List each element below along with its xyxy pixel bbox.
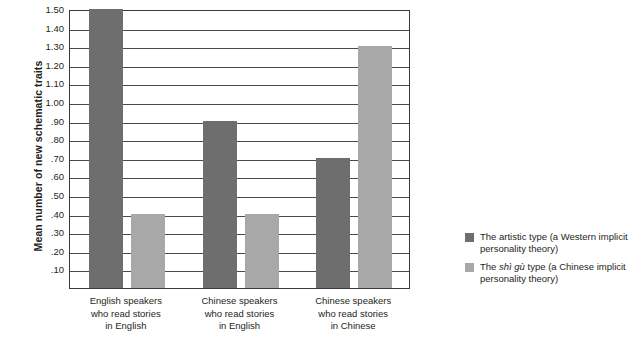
legend-label: The shì gù type (a Chinese implicit pers… xyxy=(480,261,633,285)
y-tick-label: .40 xyxy=(30,210,64,220)
y-tick-label: 1.10 xyxy=(30,79,64,89)
y-tick-label: .20 xyxy=(30,247,64,257)
y-tick-label: .30 xyxy=(30,228,64,238)
x-tick-label: Chinese speakerswho read storiesin Engli… xyxy=(175,295,305,333)
bar xyxy=(245,214,279,288)
y-tick-label: 1.00 xyxy=(30,98,64,108)
x-tick-label: Chinese speakerswho read storiesin Chine… xyxy=(288,295,418,333)
legend-label-italic: shì gù xyxy=(499,261,525,272)
y-tick-label: 1.40 xyxy=(30,24,64,34)
y-axis-tick-labels: 1.501.401.301.201.101.00.90.80.70.60.50.… xyxy=(28,10,64,289)
legend-label: The artistic type (a Western implicit pe… xyxy=(480,231,633,255)
legend-swatch-icon xyxy=(465,263,474,272)
x-tick-label-line: Chinese speakers xyxy=(175,295,305,308)
x-tick-label-line: Chinese speakers xyxy=(288,295,418,308)
y-tick-label: .50 xyxy=(30,191,64,201)
y-tick-label: 1.20 xyxy=(30,61,64,71)
bar xyxy=(89,9,123,288)
y-tick-label: .80 xyxy=(30,135,64,145)
y-tick-label: .10 xyxy=(30,265,64,275)
bar xyxy=(316,158,350,288)
x-tick-label-line: who read stories xyxy=(61,308,191,321)
x-tick-label: English speakerswho read storiesin Engli… xyxy=(61,295,191,333)
bar xyxy=(358,46,392,288)
bar xyxy=(131,214,165,288)
legend-item[interactable]: The artistic type (a Western implicit pe… xyxy=(465,231,633,255)
legend-swatch-icon xyxy=(465,233,474,242)
x-tick-label-line: in Chinese xyxy=(288,320,418,333)
x-tick-label-line: who read stories xyxy=(175,308,305,321)
legend: The artistic type (a Western implicit pe… xyxy=(465,231,633,291)
y-tick-label: .60 xyxy=(30,172,64,182)
x-tick-label-line: who read stories xyxy=(288,308,418,321)
y-tick-label: .90 xyxy=(30,117,64,127)
bar-chart-figure: Mean number of new schematic traits 1.50… xyxy=(0,0,634,344)
x-tick-label-line: English speakers xyxy=(61,295,191,308)
plot-area xyxy=(69,10,410,289)
bar xyxy=(203,121,237,288)
x-tick-label-line: in English xyxy=(175,320,305,333)
y-tick-label: 1.30 xyxy=(30,42,64,52)
y-tick-label: .70 xyxy=(30,154,64,164)
y-tick-label: 1.50 xyxy=(30,5,64,15)
legend-item[interactable]: The shì gù type (a Chinese implicit pers… xyxy=(465,261,633,285)
x-tick-label-line: in English xyxy=(61,320,191,333)
